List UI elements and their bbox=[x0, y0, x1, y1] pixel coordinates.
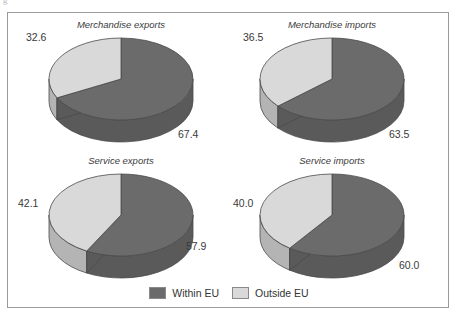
value-label-outside-merchandise-imports: 36.5 bbox=[243, 31, 263, 43]
panel-title-merchandise-exports: Merchandise exports bbox=[26, 19, 216, 30]
panel-title-merchandise-imports: Merchandise imports bbox=[237, 19, 427, 30]
pie-panel-service-exports: Service exports 42.1 57.9 bbox=[26, 155, 216, 287]
legend-swatch-outside-eu bbox=[232, 287, 249, 299]
value-label-within-service-imports: 60.0 bbox=[399, 259, 419, 271]
pie-panel-service-imports: Service imports 40.0 60.0 bbox=[237, 155, 427, 287]
legend-entry-within-eu: Within EU bbox=[149, 287, 219, 299]
value-label-within-merchandise-imports: 63.5 bbox=[389, 128, 409, 140]
panel-title-service-exports: Service exports bbox=[26, 155, 216, 166]
value-label-outside-merchandise-exports: 32.6 bbox=[26, 31, 46, 43]
legend-entry-outside-eu: Outside EU bbox=[232, 287, 309, 299]
pie-svg-service-imports bbox=[237, 169, 427, 289]
value-label-within-merchandise-exports: 67.4 bbox=[178, 128, 198, 140]
value-label-within-service-exports: 57.9 bbox=[186, 240, 206, 252]
pie-svg-service-exports bbox=[26, 169, 216, 289]
pie-panel-merchandise-exports: Merchandise exports 32.6 67.4 bbox=[26, 19, 216, 151]
legend-label-within-eu: Within EU bbox=[172, 287, 219, 299]
legend-swatch-within-eu bbox=[149, 287, 166, 299]
chart-legend: Within EU Outside EU bbox=[8, 287, 450, 299]
figure-root: g Merchandise exports 32.6 67.4 Merchand… bbox=[0, 0, 457, 315]
legend-label-outside-eu: Outside EU bbox=[255, 287, 309, 299]
value-label-outside-service-imports: 40.0 bbox=[233, 197, 253, 209]
page-corner-artifact: g bbox=[3, 0, 13, 5]
pie-panel-merchandise-imports: Merchandise imports 36.5 63.5 bbox=[237, 19, 427, 151]
value-label-outside-service-exports: 42.1 bbox=[18, 197, 38, 209]
chart-frame: Merchandise exports 32.6 67.4 Merchandis… bbox=[7, 12, 449, 308]
panel-title-service-imports: Service imports bbox=[237, 155, 427, 166]
